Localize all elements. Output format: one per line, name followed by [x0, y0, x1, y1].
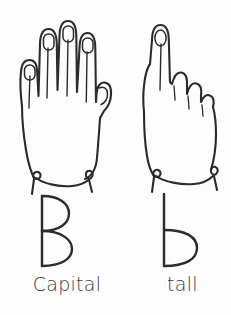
- fist-index-finger-illustration: [126, 6, 231, 196]
- handwriting-cue-chart: Capital: [0, 0, 231, 315]
- caption-capital: Capital: [0, 272, 130, 296]
- letter-capital-b-glyph: [0, 190, 126, 272]
- open-hand-illustration: [0, 6, 126, 196]
- panel-capital-b: Capital: [0, 0, 126, 315]
- letter-lowercase-b-glyph: [126, 190, 231, 272]
- caption-tall: tall: [126, 272, 231, 296]
- panel-tall-b: tall: [126, 0, 231, 315]
